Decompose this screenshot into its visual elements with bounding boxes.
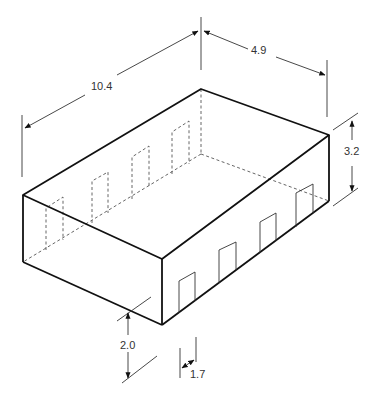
dim-height (333, 113, 358, 206)
label-height: 3.2 (344, 145, 359, 157)
box-edges (23, 89, 329, 325)
label-door-height: 2.0 (120, 339, 135, 351)
front-doors (179, 184, 313, 313)
dim-width (201, 17, 327, 117)
label-width: 4.9 (251, 44, 266, 56)
label-door-width: 1.7 (190, 368, 205, 380)
label-length: 10.4 (91, 80, 112, 92)
isometric-box-diagram: 10.4 4.9 3.2 2.0 1.7 (0, 0, 382, 398)
